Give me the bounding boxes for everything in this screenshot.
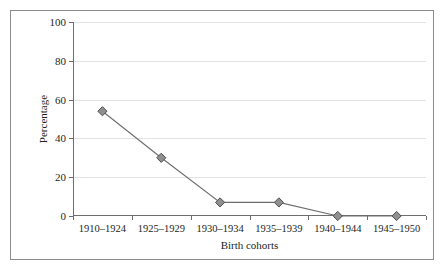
x-axis-tick-label: 1935–1939 [255, 223, 302, 234]
data-point-marker [392, 211, 401, 220]
plot-area: 020406080100 1910–19241925–19291930–1934… [73, 22, 426, 216]
x-axis-tick-label: 1930–1934 [196, 223, 243, 234]
series-line [102, 111, 396, 216]
x-axis-tick [73, 216, 74, 220]
x-axis-tick-label: 1945–1950 [373, 223, 420, 234]
x-axis-tick-label: 1925–1929 [138, 223, 185, 234]
y-axis-tick-label: 80 [55, 55, 66, 66]
x-axis-tick [426, 216, 427, 220]
x-axis-tick [367, 216, 368, 220]
y-axis-tick-label: 60 [55, 94, 66, 105]
data-point-marker [274, 198, 283, 207]
y-axis-tick-label: 100 [50, 17, 67, 28]
x-axis-tick-label: 1910–1924 [79, 223, 126, 234]
data-series [73, 22, 426, 216]
chart-area: 020406080100 1910–19241925–19291930–1934… [11, 11, 433, 259]
y-axis-tick-label: 20 [55, 172, 66, 183]
data-point-marker [333, 211, 342, 220]
y-axis-title: Percentage [37, 95, 49, 143]
y-axis-tick-label: 0 [61, 211, 67, 222]
x-axis-title: Birth cohorts [73, 239, 426, 251]
x-axis-tick [191, 216, 192, 220]
y-axis-tick-label: 40 [55, 133, 66, 144]
figure-frame: 020406080100 1910–19241925–19291930–1934… [10, 10, 434, 260]
data-point-marker [215, 198, 224, 207]
x-axis-tick [250, 216, 251, 220]
x-axis-tick [308, 216, 309, 220]
x-axis-tick [132, 216, 133, 220]
x-axis-tick-label: 1940–1944 [314, 223, 361, 234]
